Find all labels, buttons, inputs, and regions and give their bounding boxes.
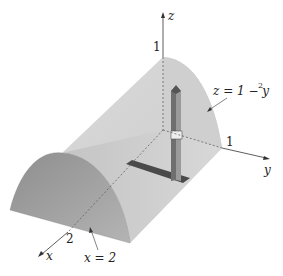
column-base-box <box>171 131 182 139</box>
y-tick-label: 1 <box>226 135 234 149</box>
x-axis-label: x <box>46 249 53 263</box>
x-tick-label: 2 <box>66 232 74 246</box>
y-axis <box>222 148 266 158</box>
x-axis-arrow-icon <box>38 251 44 257</box>
surface-pointer-line <box>209 98 227 110</box>
z-tick-label: 1 <box>153 40 161 54</box>
z-axis-arrow-icon <box>161 12 165 18</box>
y-axis-arrow-icon <box>263 156 270 160</box>
y-axis-label: y <box>263 163 271 177</box>
plane-equation-label: x = 2 <box>84 251 116 265</box>
surface-equation-exponent: 2 <box>258 81 263 90</box>
z-axis-label: z <box>167 9 175 23</box>
solid-region-diagram: z 1 1 y 2 x z = 1 − y 2 x = 2 <box>0 0 283 276</box>
